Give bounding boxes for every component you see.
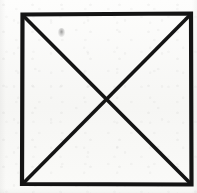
square-with-diagonals-drawing	[0, 0, 197, 193]
figure-canvas	[0, 0, 197, 193]
